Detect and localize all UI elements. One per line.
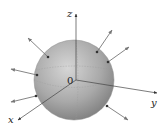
y-axis-label: y (150, 97, 157, 108)
z-axis-label: z (66, 8, 73, 19)
sphere-normals-diagram: z y x 0 (0, 0, 167, 129)
x-axis-label: x (8, 114, 14, 125)
sphere (34, 40, 114, 120)
origin-label: 0 (67, 75, 73, 86)
